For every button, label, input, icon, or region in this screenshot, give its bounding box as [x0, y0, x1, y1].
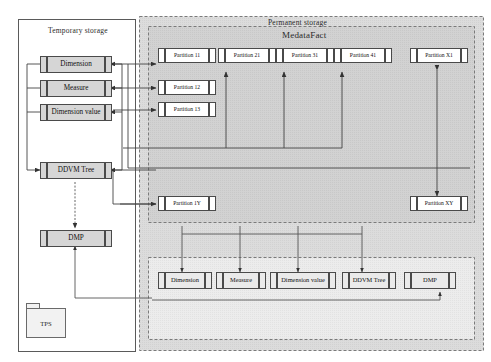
box-partition-xy-label: Partition XY [423, 201, 456, 207]
box-partition-x1[interactable]: Partition X1 [410, 48, 468, 63]
box-perm-dimension[interactable]: Dimension [158, 272, 212, 289]
box-partition-41[interactable]: Partition 41 [334, 48, 392, 63]
box-partition-1y-label: Partition 1Y [171, 201, 203, 207]
metadata-fact-label: MedataFact [282, 30, 326, 40]
box-partition-21[interactable]: Partition 21 [218, 48, 276, 63]
box-perm-ddvm-tree-label: DDVM Tree [351, 277, 388, 283]
box-partition-31[interactable]: Partition 31 [276, 48, 334, 63]
box-partition-x1-label: Partition X1 [423, 53, 455, 59]
box-tmp-dimension[interactable]: Dimension [40, 56, 112, 73]
box-partition-1y[interactable]: Partition 1Y [158, 196, 216, 211]
box-tmp-dmp-label: DMP [66, 235, 86, 242]
box-partition-41-label: Partition 41 [348, 53, 378, 59]
tps-label: TPS [40, 320, 51, 327]
box-tmp-dimension-label: Dimension [58, 61, 94, 68]
box-partition-31-label: Partition 31 [290, 53, 320, 59]
box-partition-xy[interactable]: Partition XY [410, 196, 468, 211]
box-tmp-measure[interactable]: Measure [40, 80, 112, 97]
temporary-storage-label: Temporary storage [48, 26, 108, 35]
box-tmp-dimension-value[interactable]: Dimension value [40, 104, 112, 121]
box-tmp-dmp[interactable]: DMP [40, 230, 112, 247]
box-perm-dimension-value-label: Dimension value [279, 277, 326, 283]
box-tmp-measure-label: Measure [62, 85, 91, 92]
box-perm-dimension-label: Dimension [169, 277, 201, 283]
box-perm-measure-label: Measure [228, 277, 254, 283]
permanent-storage-label: Permanent storage [268, 18, 327, 27]
tps-folder[interactable]: TPS [26, 308, 66, 338]
box-partition-13-label: Partition 13 [172, 107, 202, 113]
permanent-entities-band [149, 258, 475, 340]
box-perm-measure[interactable]: Measure [216, 272, 266, 289]
box-tmp-dimension-value-label: Dimension value [50, 109, 103, 116]
box-partition-12-label: Partition 12 [172, 85, 202, 91]
box-perm-dmp-label: DMP [421, 277, 439, 283]
box-tmp-ddvm-tree-label: DDVM Tree [56, 167, 97, 174]
box-partition-21-label: Partition 21 [232, 53, 262, 59]
box-partition-11[interactable]: Partition 11 [158, 48, 216, 63]
box-perm-dmp[interactable]: DMP [404, 272, 456, 289]
box-perm-ddvm-tree[interactable]: DDVM Tree [342, 272, 396, 289]
diagram-canvas: Temporary storage Permanent storage Meda… [0, 0, 491, 362]
box-partition-13[interactable]: Partition 13 [158, 102, 216, 117]
box-partition-11-label: Partition 11 [172, 53, 202, 59]
box-perm-dimension-value[interactable]: Dimension value [270, 272, 336, 289]
box-tmp-ddvm-tree[interactable]: DDVM Tree [40, 162, 112, 179]
box-partition-12[interactable]: Partition 12 [158, 80, 216, 95]
